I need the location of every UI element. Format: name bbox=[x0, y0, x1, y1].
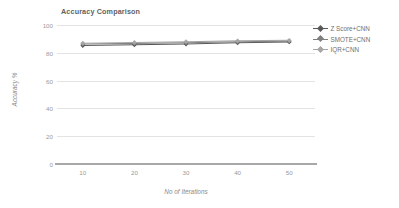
series-lines-group bbox=[57, 25, 315, 164]
x-tick-label: 10 bbox=[79, 169, 86, 176]
y-tick-label: 80 bbox=[46, 49, 53, 56]
y-tick-label: 20 bbox=[46, 133, 53, 140]
y-tick-label: 40 bbox=[46, 105, 53, 112]
chart-title: Accuracy Comparison bbox=[61, 7, 140, 16]
y-axis-title: Accuracy % bbox=[11, 60, 18, 120]
legend-item[interactable]: IQR+CNN bbox=[313, 45, 397, 54]
legend-item[interactable]: Z Score+CNN bbox=[313, 24, 397, 33]
y-axis-tick-labels: 020406080100 bbox=[30, 25, 53, 164]
x-axis-line bbox=[55, 163, 317, 165]
legend-label: SMOTE+CNN bbox=[331, 35, 371, 44]
legend-marker-icon bbox=[313, 24, 328, 33]
legend-item[interactable]: SMOTE+CNN bbox=[313, 35, 397, 44]
y-tick-label: 100 bbox=[43, 22, 53, 29]
plot-area bbox=[57, 25, 315, 164]
x-axis-tick-labels: 1020304050 bbox=[57, 169, 315, 181]
legend: Z Score+CNNSMOTE+CNNIQR+CNN bbox=[313, 24, 397, 56]
x-tick-label: 20 bbox=[131, 169, 138, 176]
x-tick-label: 50 bbox=[286, 169, 293, 176]
y-tick-label: 0 bbox=[50, 161, 53, 168]
y-tick-label: 60 bbox=[46, 77, 53, 84]
legend-marker-icon bbox=[313, 45, 328, 54]
legend-label: Z Score+CNN bbox=[331, 24, 370, 33]
accuracy-comparison-chart: Accuracy Comparison 020406080100 1020304… bbox=[0, 0, 399, 208]
legend-label: IQR+CNN bbox=[331, 45, 360, 54]
x-tick-label: 30 bbox=[183, 169, 190, 176]
legend-marker-icon bbox=[313, 35, 328, 44]
x-axis-title: No of Iterations bbox=[57, 188, 315, 195]
x-tick-label: 40 bbox=[234, 169, 241, 176]
